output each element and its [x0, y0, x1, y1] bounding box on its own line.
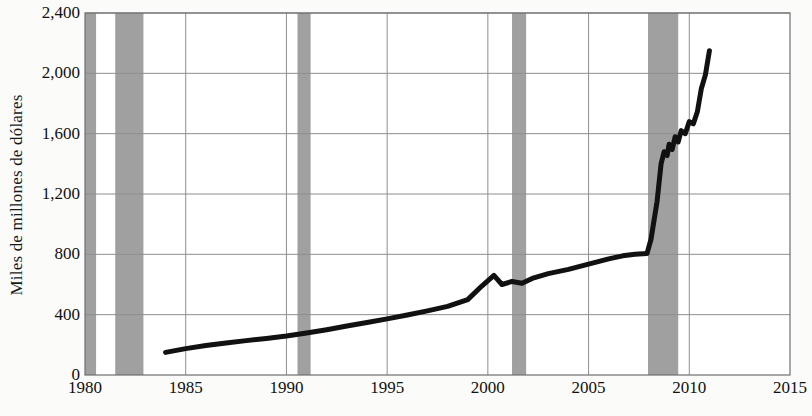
plot-area [0, 0, 812, 416]
chart-container: Miles de millones de dólares 04008001,20… [0, 0, 812, 416]
